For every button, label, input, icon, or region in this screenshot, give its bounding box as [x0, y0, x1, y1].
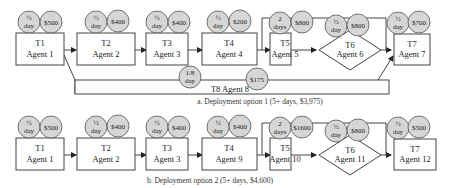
svg-text:T3: T3 [162, 38, 171, 48]
svg-text:$800: $800 [351, 22, 366, 30]
svg-text:day: day [24, 22, 35, 30]
svg-text:day: day [393, 128, 404, 136]
svg-text:T7: T7 [410, 144, 419, 154]
svg-text:½: ½ [93, 14, 98, 22]
svg-text:½: ½ [154, 14, 159, 22]
svg-text:T4: T4 [224, 38, 234, 48]
svg-text:T5: T5 [280, 38, 289, 48]
svg-text:Agent 5: Agent 5 [271, 49, 298, 59]
svg-text:$400: $400 [172, 19, 187, 27]
svg-text:day: day [331, 131, 342, 139]
svg-text:$500: $500 [44, 124, 59, 132]
svg-text:Agent 1: Agent 1 [26, 49, 53, 59]
svg-text:$800: $800 [295, 19, 310, 27]
svg-text:$400: $400 [172, 124, 187, 132]
svg-text:½: ½ [333, 123, 338, 131]
svg-text:$500: $500 [44, 19, 59, 27]
svg-text:½: ½ [333, 18, 338, 26]
svg-text:T2: T2 [101, 38, 110, 48]
svg-text:Agent 1: Agent 1 [26, 154, 53, 164]
svg-text:day: day [213, 22, 224, 30]
svg-text:Agent 2: Agent 2 [92, 154, 119, 164]
svg-text:1/8: 1/8 [186, 69, 195, 77]
svg-text:days: days [274, 128, 287, 136]
svg-text:day: day [393, 23, 404, 31]
svg-text:Agent 7: Agent 7 [398, 49, 425, 59]
svg-text:$400: $400 [233, 123, 248, 131]
svg-text:Agent 12: Agent 12 [399, 154, 430, 164]
svg-text:½: ½ [154, 119, 159, 127]
svg-text:day: day [152, 127, 163, 135]
svg-text:T2: T2 [101, 143, 110, 153]
caption-a: a. Deployment option 1 (5+ days, $3,975) [197, 97, 323, 106]
svg-text:T1: T1 [35, 143, 44, 153]
svg-text:Agent 10: Agent 10 [269, 154, 300, 164]
svg-text:2: 2 [278, 120, 282, 128]
diagram-a: T1 Agent 1 ½ day $500 T2 Agent 2 ½ day $… [16, 10, 430, 106]
diagram-b: T1 Agent 1 ½ day $500 T2 Agent 2 ½ day $… [16, 115, 436, 185]
svg-text:T5: T5 [280, 143, 289, 153]
svg-text:$400: $400 [111, 18, 126, 26]
svg-text:T8 Agent 8: T8 Agent 8 [211, 84, 249, 94]
svg-text:$175: $175 [250, 76, 265, 84]
svg-text:$500: $500 [412, 124, 427, 132]
svg-text:Agent 9: Agent 9 [215, 154, 242, 164]
svg-text:T3: T3 [162, 143, 171, 153]
svg-text:½: ½ [395, 15, 400, 23]
svg-text:Agent 3: Agent 3 [153, 154, 180, 164]
svg-text:½: ½ [215, 14, 220, 22]
svg-text:½: ½ [26, 14, 31, 22]
svg-text:$1600: $1600 [293, 124, 311, 132]
svg-text:Agent 6: Agent 6 [336, 49, 363, 59]
svg-text:day: day [91, 127, 102, 135]
svg-text:day: day [152, 22, 163, 30]
svg-text:½: ½ [395, 120, 400, 128]
deployment-diagrams: T1 Agent 1 ½ day $500 T2 Agent 2 ½ day $… [0, 0, 449, 188]
svg-text:$200: $200 [233, 18, 248, 26]
svg-text:Agent 4: Agent 4 [215, 49, 243, 59]
svg-text:½: ½ [215, 119, 220, 127]
svg-text:$400: $400 [111, 123, 126, 131]
caption-b: b. Deployment option 2 (5+ days, $4,600) [147, 176, 274, 185]
svg-text:½: ½ [26, 119, 31, 127]
svg-text:T7: T7 [407, 39, 416, 49]
svg-text:T1: T1 [35, 38, 44, 48]
svg-text:day: day [185, 77, 196, 85]
svg-text:$700: $700 [412, 19, 427, 27]
svg-text:day: day [91, 22, 102, 30]
svg-text:days: days [274, 23, 287, 31]
svg-text:Agent 2: Agent 2 [92, 49, 119, 59]
svg-text:T4: T4 [224, 143, 234, 153]
svg-text:2: 2 [278, 15, 282, 23]
svg-text:day: day [24, 127, 35, 135]
svg-text:Agent 3: Agent 3 [153, 49, 180, 59]
svg-text:day: day [331, 26, 342, 34]
svg-text:$800: $800 [351, 127, 366, 135]
svg-text:day: day [213, 127, 224, 135]
svg-text:Agent 11: Agent 11 [334, 154, 365, 164]
svg-text:½: ½ [93, 119, 98, 127]
